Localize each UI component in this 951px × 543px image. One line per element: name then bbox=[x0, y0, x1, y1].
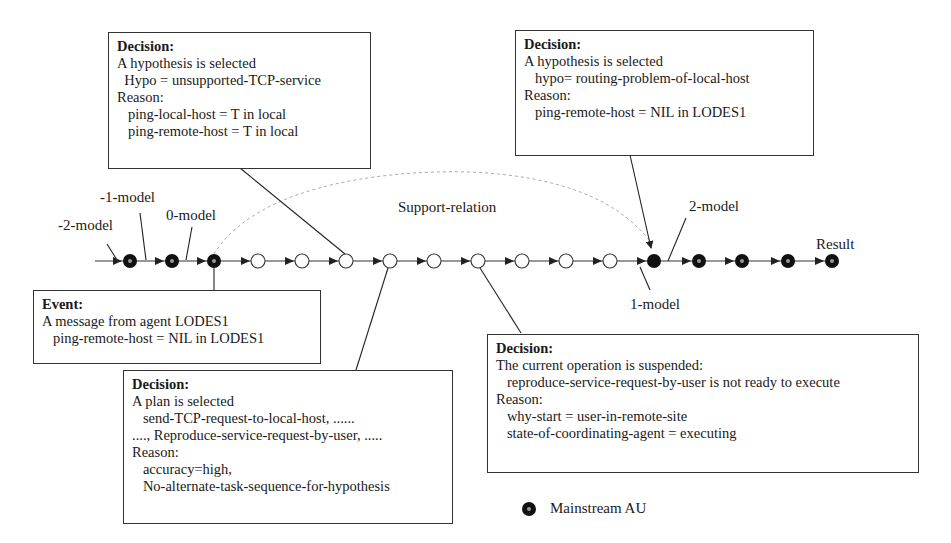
box-line: The current operation is suspended: bbox=[496, 357, 910, 374]
model-label-minus-1: -1-model bbox=[100, 189, 155, 206]
open-node bbox=[241, 254, 265, 268]
open-node bbox=[329, 254, 353, 268]
box-line: hypo= routing-problem-of-local-host bbox=[524, 70, 805, 87]
filled-node bbox=[637, 254, 661, 268]
arrowhead-icon bbox=[815, 257, 824, 265]
arrowhead-icon bbox=[155, 257, 164, 265]
box-line: Hypo = unsupported-TCP-service bbox=[117, 72, 362, 89]
open-node bbox=[593, 254, 617, 268]
result-label: Result bbox=[816, 236, 854, 253]
box-line: accuracy=high, bbox=[132, 461, 444, 478]
support-relation-label: Support-relation bbox=[398, 199, 496, 216]
model-label-2: 2-model bbox=[689, 198, 739, 215]
box-line: Reason: bbox=[496, 391, 910, 408]
box-line: state-of-coordinating-agent = executing bbox=[496, 425, 910, 442]
model-label-minus-2: -2-model bbox=[58, 217, 113, 234]
box-line: A hypothesis is selected bbox=[524, 53, 805, 70]
arrowhead-icon bbox=[285, 257, 294, 265]
arrowhead-icon bbox=[637, 257, 646, 265]
arrowhead-icon bbox=[373, 257, 382, 265]
legend: Mainstream AU bbox=[522, 500, 646, 517]
box-line: Reason: bbox=[524, 87, 805, 104]
box-line: reproduce-service-request-by-user is not… bbox=[496, 374, 910, 391]
mainstream-au-node bbox=[725, 254, 749, 268]
box-title: Decision: bbox=[117, 38, 362, 55]
model-label-1: 1-model bbox=[630, 296, 680, 313]
mainstream-au-node bbox=[113, 254, 137, 268]
box-line: A message from agent LODES1 bbox=[42, 313, 312, 330]
open-node bbox=[285, 254, 309, 268]
arrowhead-icon bbox=[461, 257, 470, 265]
arrowhead-icon bbox=[682, 257, 691, 265]
box-title: Decision: bbox=[496, 340, 910, 357]
box-title: Decision: bbox=[132, 376, 444, 393]
arrowhead-icon bbox=[505, 257, 514, 265]
box-title: Decision: bbox=[524, 36, 805, 53]
open-node bbox=[373, 254, 397, 268]
box-line: ...., Reproduce-service-request-by-user,… bbox=[132, 427, 444, 444]
arrowhead-icon bbox=[417, 257, 426, 265]
box-line: why-start = user-in-remote-site bbox=[496, 408, 910, 425]
arrowhead-icon bbox=[197, 257, 206, 265]
open-node bbox=[417, 254, 441, 268]
arrowhead-icon bbox=[549, 257, 558, 265]
open-node bbox=[461, 254, 485, 268]
mainstream-au-node bbox=[815, 254, 839, 268]
box-line: A plan is selected bbox=[132, 393, 444, 410]
arrowhead-icon bbox=[241, 257, 250, 265]
mainstream-au-node bbox=[197, 254, 221, 268]
box-title: Event: bbox=[42, 296, 312, 313]
mainstream-au-node bbox=[155, 254, 179, 268]
arrowhead-icon bbox=[329, 257, 338, 265]
box-line: No-alternate-task-sequence-for-hypothesi… bbox=[132, 478, 444, 495]
decision-box-unsupported-tcp: Decision: A hypothesis is selected Hypo … bbox=[108, 32, 371, 169]
legend-label: Mainstream AU bbox=[550, 500, 646, 517]
box-line: A hypothesis is selected bbox=[117, 55, 362, 72]
open-node bbox=[549, 254, 573, 268]
box-line: ping-local-host = T in local bbox=[117, 106, 362, 123]
model-label-0: 0-model bbox=[166, 207, 216, 224]
box-line: send-TCP-request-to-local-host, ...... bbox=[132, 410, 444, 427]
box-line: Reason: bbox=[117, 89, 362, 106]
mainstream-au-node bbox=[771, 254, 795, 268]
box-line: ping-remote-host = NIL in LODES1 bbox=[42, 330, 312, 347]
arrowhead-icon bbox=[113, 257, 122, 265]
arrowhead-icon bbox=[725, 257, 734, 265]
mainstream-au-dot-icon bbox=[522, 502, 536, 516]
decision-box-routing-problem: Decision: A hypothesis is selected hypo=… bbox=[515, 30, 814, 156]
arrowhead-icon bbox=[593, 257, 602, 265]
open-node bbox=[505, 254, 529, 268]
box-line: ping-remote-host = T in local bbox=[117, 123, 362, 140]
event-box-message: Event: A message from agent LODES1 ping-… bbox=[33, 290, 321, 364]
box-line: Reason: bbox=[132, 444, 444, 461]
decision-box-plan: Decision: A plan is selected send-TCP-re… bbox=[123, 370, 453, 524]
box-line: ping-remote-host = NIL in LODES1 bbox=[524, 104, 805, 121]
decision-box-suspended: Decision: The current operation is suspe… bbox=[487, 334, 919, 473]
arrowhead-icon bbox=[771, 257, 780, 265]
mainstream-au-node bbox=[682, 254, 706, 268]
